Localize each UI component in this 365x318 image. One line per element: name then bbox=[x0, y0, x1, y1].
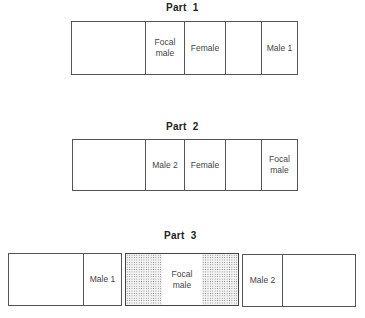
part-1-cell-empty-1 bbox=[72, 22, 145, 74]
part-3-cell-male-2: Male 2 bbox=[243, 255, 282, 306]
part-3-cell-male-1: Male 1 bbox=[84, 254, 121, 305]
part-2-cell-female: Female bbox=[185, 140, 225, 190]
part-2-cage-right: Female Focal male bbox=[184, 139, 298, 191]
part-3-cage-center: Focal male bbox=[125, 253, 239, 306]
part-2-cell-focal-male: Focal male bbox=[262, 140, 297, 190]
part-2-cell-male-2: Male 2 bbox=[146, 140, 184, 190]
part-3-cell-focal-male: Focal male bbox=[162, 254, 202, 305]
part-1-cell-female: Female bbox=[185, 22, 225, 74]
part-3-cell-empty-1 bbox=[9, 254, 83, 305]
part-2-title: Part 2 bbox=[166, 121, 199, 132]
part-1-title: Part 1 bbox=[166, 2, 199, 13]
part-3-stippled-zone-right bbox=[202, 254, 238, 305]
part-2-cage-left: Male 2 bbox=[72, 139, 185, 191]
part-2-cell-empty-2 bbox=[226, 140, 261, 190]
part-3-stippled-zone-left bbox=[126, 254, 162, 305]
part-3-title: Part 3 bbox=[164, 230, 197, 241]
part-2-cell-empty-1 bbox=[73, 140, 145, 190]
part-3-cage-right: Male 2 bbox=[242, 254, 356, 307]
part-1-cage-right: Female Male 1 bbox=[184, 21, 298, 75]
part-3-cell-empty-2 bbox=[283, 255, 355, 306]
part-3-cage-left: Male 1 bbox=[8, 253, 122, 306]
part-1-cell-empty-2 bbox=[226, 22, 261, 74]
part-1-cell-male-1: Male 1 bbox=[262, 22, 297, 74]
part-1-cage-left: Focal male bbox=[71, 21, 185, 75]
part-1-cell-focal-male: Focal male bbox=[146, 22, 184, 74]
